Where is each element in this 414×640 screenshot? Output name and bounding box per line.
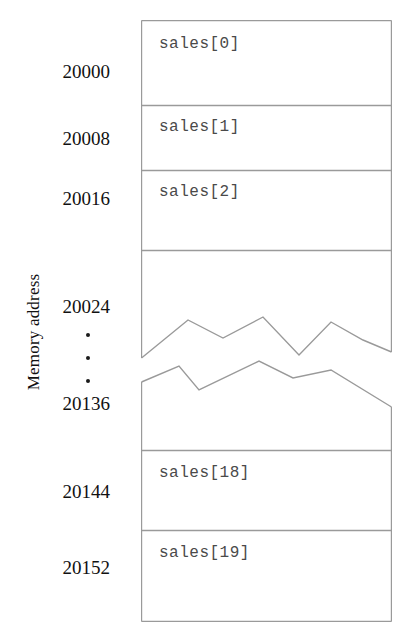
ellipsis-dot-2	[0, 343, 90, 366]
cell-label-sales-0: sales[0]	[159, 35, 240, 53]
ellipsis-dot-1	[0, 320, 90, 343]
cell-label-sales-2: sales[2]	[159, 183, 240, 201]
tear-edge-upper	[142, 317, 392, 358]
memory-block: sales[0] sales[1] sales[2] sales[18] sal…	[141, 20, 392, 622]
cell-label-sales-1: sales[1]	[159, 118, 240, 136]
ellipsis-dot-3	[0, 366, 90, 389]
memory-address-diagram: Memory address 20000 20008 20016 20024 2…	[0, 0, 414, 640]
address-label-20016: 20016	[0, 188, 128, 210]
address-label-20000: 20000	[0, 61, 128, 83]
address-label-20008: 20008	[0, 128, 128, 150]
vertical-ellipsis	[0, 320, 128, 389]
address-label-column: 20000 20008 20016 20024 20136 20144 2015…	[0, 0, 128, 640]
memory-block-outline	[141, 20, 392, 622]
address-label-20136: 20136	[0, 393, 128, 415]
tear-edge-lower	[142, 361, 392, 407]
cell-label-sales-19: sales[19]	[159, 544, 250, 562]
address-label-20144: 20144	[0, 481, 128, 503]
address-label-20152: 20152	[0, 557, 128, 579]
cell-label-sales-18: sales[18]	[159, 464, 250, 482]
address-label-20024: 20024	[0, 296, 128, 318]
